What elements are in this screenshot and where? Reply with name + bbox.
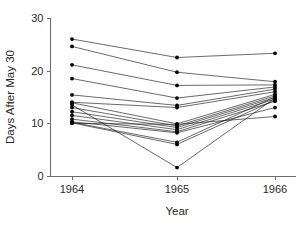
y-tick-group: 0102030 [31,12,50,182]
data-point [273,115,277,119]
x-tick-label: 1964 [60,183,84,195]
data-point [70,63,74,67]
data-point [70,93,74,97]
data-series-layer [70,37,277,169]
y-tick-label: 20 [31,65,43,77]
data-point [273,96,277,100]
chart-screenshot: 0102030 196419651966 Days After May 30 Y… [0,0,303,229]
x-axis-title: Year [165,205,188,217]
x-tick-group: 196419651966 [60,176,287,195]
data-point [273,51,277,55]
data-point [70,114,74,118]
y-axis-title: Days After May 30 [4,50,16,144]
y-axis: 0102030 [31,12,50,182]
x-tick-label: 1966 [263,183,287,195]
series-line [72,65,275,86]
data-point [175,131,179,135]
series-line [72,39,275,57]
data-series [70,37,277,59]
data-point [70,45,74,49]
data-point [70,37,74,41]
data-point [175,96,179,100]
line-chart: 0102030 196419651966 Days After May 30 Y… [0,0,303,229]
data-series [70,45,277,84]
data-series [70,97,277,131]
data-point [175,166,179,170]
data-point [70,77,74,81]
data-point [273,106,277,110]
data-point [70,103,74,107]
data-point [70,121,74,125]
data-point [175,56,179,60]
y-tick-label: 10 [31,117,43,129]
x-axis: 196419651966 [51,176,297,195]
series-line [72,46,275,81]
data-point [175,106,179,110]
data-point [175,84,179,88]
data-point [175,143,179,147]
data-point [175,122,179,126]
x-tick-label: 1965 [165,183,189,195]
y-tick-label: 30 [31,12,43,24]
data-point [175,70,179,74]
series-line [72,79,275,98]
y-tick-label: 0 [37,170,43,182]
data-point [70,110,74,114]
